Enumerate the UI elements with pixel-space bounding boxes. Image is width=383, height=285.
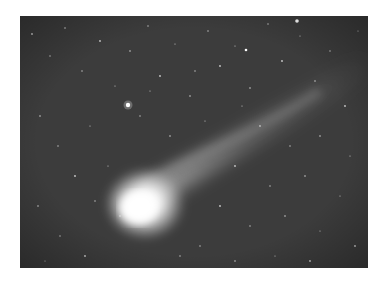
comet-photo: Grayscale astrophotograph of a bright co… <box>20 16 368 268</box>
comet-illustration <box>20 16 368 268</box>
